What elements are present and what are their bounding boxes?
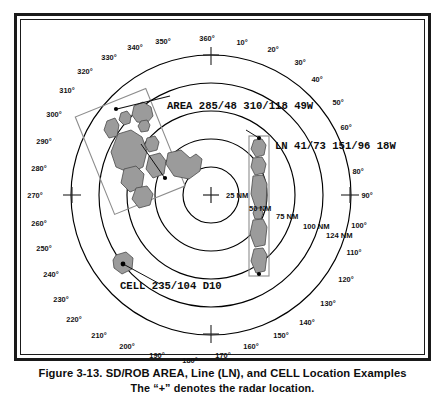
azimuth-label-120: 120° xyxy=(338,275,353,284)
azimuth-label-020: 20° xyxy=(267,45,278,54)
figure-caption: Figure 3-13. SD/ROB AREA, Line (LN), and… xyxy=(0,366,445,396)
azimuth-label-170: 170° xyxy=(215,351,230,360)
azimuth-label-230: 230° xyxy=(53,295,68,304)
azimuth-label-340: 340° xyxy=(127,43,142,52)
figure-3-13: AREA 285/48 310/118 49W LN 41/73 151/96 … xyxy=(0,0,445,411)
azimuth-label-080: 80° xyxy=(352,167,363,176)
azimuth-label-360: 360° xyxy=(199,34,214,43)
azimuth-label-330: 330° xyxy=(101,53,116,62)
azimuth-label-180: 180° xyxy=(182,356,197,364)
area-cell-blob-10 xyxy=(132,186,153,208)
line-leader-upper xyxy=(246,130,259,138)
azimuth-label-260: 260° xyxy=(31,219,46,228)
azimuth-label-140: 140° xyxy=(299,318,314,327)
area-cell-blob-1 xyxy=(132,102,153,123)
azimuth-label-150: 150° xyxy=(273,331,288,340)
azimuth-label-200: 200° xyxy=(119,342,134,351)
azimuth-label-010: 10° xyxy=(236,38,247,47)
azimuth-label-100: 100° xyxy=(351,221,366,230)
azimuth-label-090: 90° xyxy=(361,191,372,200)
azimuth-label-060: 60° xyxy=(340,123,351,132)
radar-location-plus-marker xyxy=(203,187,219,203)
azimuth-label-270: 270° xyxy=(27,191,42,200)
area-annotation-label: AREA 285/48 310/118 49W xyxy=(167,100,314,112)
radar-display-frame: AREA 285/48 310/118 49W LN 41/73 151/96 … xyxy=(14,13,431,361)
range-label-50nm: 50 NM xyxy=(249,204,271,213)
area-cell-blob-6 xyxy=(145,136,159,152)
azimuth-label-210: 210° xyxy=(91,331,106,340)
azimuth-label-130: 130° xyxy=(320,299,335,308)
azimuth-label-050: 50° xyxy=(332,98,343,107)
azimuth-label-240: 240° xyxy=(43,270,58,279)
line-annotation-label: LN 41/73 151/96 18W xyxy=(275,140,396,152)
area-cell-blob-2 xyxy=(119,111,131,125)
azimuth-label-280: 280° xyxy=(31,164,46,173)
azimuth-label-160: 160° xyxy=(243,342,258,351)
azimuth-label-350: 350° xyxy=(155,37,170,46)
azimuth-label-030: 30° xyxy=(294,58,305,67)
line-cell-blob-6 xyxy=(251,248,267,273)
line-endpoint-151-96[interactable] xyxy=(257,272,261,276)
range-label-124nm: 124 NM xyxy=(326,231,353,240)
figure-caption-line-2: The “+” denotes the radar location. xyxy=(0,381,445,396)
azimuth-label-040: 40° xyxy=(311,75,322,84)
azimuth-label-300: 300° xyxy=(46,110,61,119)
radar-plan-position-indicator: AREA 285/48 310/118 49W LN 41/73 151/96 … xyxy=(17,16,434,364)
azimuth-label-110: 110° xyxy=(347,248,362,257)
range-label-75nm: 75 NM xyxy=(276,212,298,221)
azimuth-label-250: 250° xyxy=(36,244,51,253)
azimuth-label-290: 290° xyxy=(36,137,51,146)
range-label-25nm: 25 NM xyxy=(226,191,248,200)
cell-annotation-label: CELL 235/104 D10 xyxy=(120,280,222,292)
azimuth-label-320: 320° xyxy=(77,67,92,76)
figure-caption-line-1: Figure 3-13. SD/ROB AREA, Line (LN), and… xyxy=(0,366,445,381)
line-cell-blob-2 xyxy=(251,157,266,175)
range-label-100nm: 100 NM xyxy=(303,222,330,231)
azimuth-label-190: 190° xyxy=(149,351,164,360)
azimuth-label-220: 220° xyxy=(66,315,81,324)
azimuth-label-310: 310° xyxy=(59,86,74,95)
area-cell-blob-3 xyxy=(104,118,119,138)
cell-endpoint-235-104[interactable] xyxy=(121,262,126,267)
line-cell-blob-1 xyxy=(251,139,266,157)
area-cell-blob-8 xyxy=(166,150,202,179)
line-cell-blob-5 xyxy=(250,219,267,247)
